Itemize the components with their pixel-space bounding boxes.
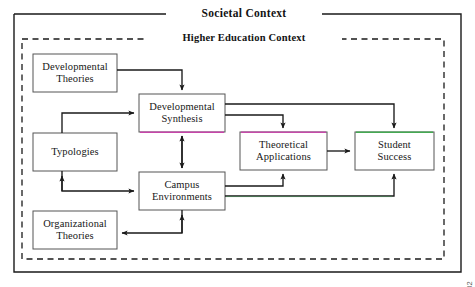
edge-typologies-to-campus	[62, 171, 134, 191]
edge-synthesis-to-theoretical	[225, 115, 283, 128]
node-boxes	[33, 54, 434, 249]
diagram-graphics	[0, 0, 475, 287]
edge-synthesis-to-student-success	[225, 104, 394, 128]
societal-context-title: Societal Context	[166, 7, 322, 19]
box-typologies[interactable]	[33, 133, 117, 171]
box-campus-environments[interactable]	[139, 172, 225, 210]
edge-campus-to-theoretical	[225, 174, 283, 186]
edge-dev-theories-to-synthesis	[117, 70, 182, 90]
copyright-notice: © McEwen, Jones, & Komives, 2002	[465, 281, 474, 287]
box-organizational-theories[interactable]	[33, 211, 117, 249]
box-student-success[interactable]	[355, 132, 434, 170]
figure-canvas: Societal Context Higher Education Contex…	[0, 0, 475, 287]
box-developmental-synthesis[interactable]	[139, 94, 225, 132]
edge-campus-to-org-theories	[122, 210, 182, 233]
box-theoretical-applications[interactable]	[240, 132, 327, 170]
higher-education-context-title: Higher Education Context	[146, 32, 342, 43]
edge-typologies-to-synthesis	[62, 113, 134, 133]
edge-campus-to-student-success	[225, 174, 394, 196]
box-developmental-theories[interactable]	[33, 54, 117, 92]
